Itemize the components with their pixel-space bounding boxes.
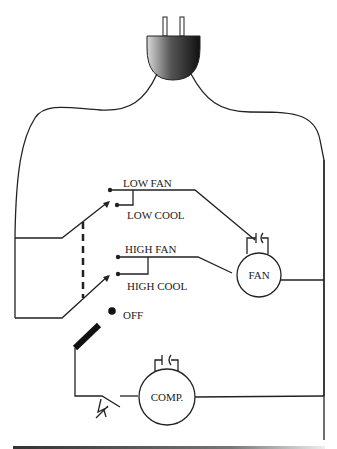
plug-icon (147, 17, 200, 80)
fan-motor: FAN (237, 233, 324, 297)
label-low-cool: LOW COOL (127, 209, 185, 221)
high-wiper (15, 276, 108, 318)
label-low-fan: LOW FAN (123, 177, 172, 189)
svg-text:COMP.: COMP. (151, 391, 184, 403)
low-wiper (15, 202, 108, 238)
label-high-cool: HIGH COOL (127, 280, 187, 292)
circuit-diagram: LOW FAN LOW COOL HIGH FAN HIGH COOL OFF … (0, 0, 337, 449)
thermostat-icon (96, 399, 108, 418)
label-off: OFF (123, 309, 143, 321)
off-contact-bar (75, 325, 99, 348)
label-high-fan: HIGH FAN (125, 243, 176, 255)
svg-text:FAN: FAN (248, 269, 269, 281)
fan-capacitor-icon (247, 238, 268, 254)
compressor: COMP. (139, 355, 324, 425)
